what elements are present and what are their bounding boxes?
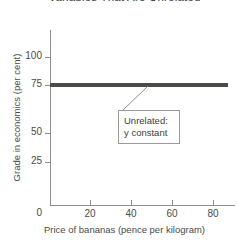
- y-axis-title: Grade in economics (per cent): [11, 23, 22, 213]
- annotation-line-2: y constant: [124, 127, 179, 139]
- x-tick-80: [213, 200, 214, 205]
- x-tick-60: [172, 200, 173, 205]
- chart-figure: Variables That Are Unrelated 100 75 50 2…: [0, 0, 249, 240]
- y-axis-line: [50, 30, 51, 206]
- y-tick-label-0: 0: [2, 207, 42, 218]
- x-axis-line: [50, 205, 235, 206]
- y-tick-label-75: 75: [2, 78, 42, 89]
- x-tick-20: [90, 200, 91, 205]
- y-tick-25: [45, 162, 50, 163]
- x-tick-label-20: 20: [70, 208, 110, 219]
- annotation-line-1: Unrelated:: [124, 115, 179, 127]
- y-tick-100: [45, 57, 50, 58]
- x-axis-title: Price of bananas (pence per kilogram): [0, 224, 249, 235]
- x-tick-label-40: 40: [111, 208, 151, 219]
- y-tick-50: [45, 133, 50, 134]
- x-tick-40: [131, 200, 132, 205]
- y-tick-label-50: 50: [2, 126, 42, 137]
- x-tick-label-60: 60: [152, 208, 192, 219]
- chart-title: Variables That Are Unrelated: [0, 0, 249, 3]
- y-tick-label-25: 25: [2, 155, 42, 166]
- annotation-callout: Unrelated: y constant: [118, 110, 180, 144]
- x-tick-label-80: 80: [193, 208, 233, 219]
- y-tick-label-100: 100: [2, 50, 42, 61]
- callout-leader-line: [120, 86, 150, 112]
